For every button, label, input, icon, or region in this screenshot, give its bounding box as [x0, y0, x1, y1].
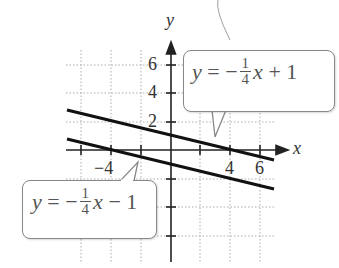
equation-lower: y = − 14 x − 1: [32, 186, 137, 217]
